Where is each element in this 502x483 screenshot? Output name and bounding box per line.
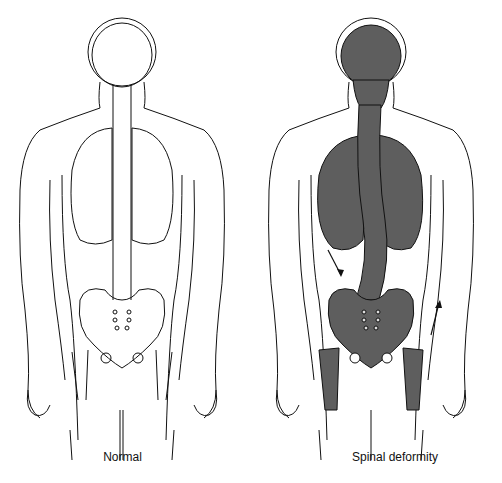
normal-body-outline <box>0 0 251 460</box>
deformity-body-outline <box>251 0 502 460</box>
arrow-up-icon <box>431 300 442 335</box>
figure-normal <box>0 0 251 460</box>
figure-spinal-deformity <box>251 0 502 460</box>
arrow-down-icon <box>328 250 344 277</box>
caption-normal: Normal <box>85 450 160 464</box>
caption-spinal-deformity: Spinal deformity <box>335 450 455 464</box>
